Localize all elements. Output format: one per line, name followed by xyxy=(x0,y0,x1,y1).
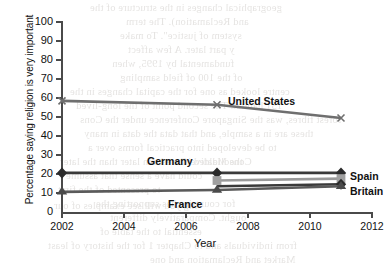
series-label-germany: Germany xyxy=(147,155,193,167)
series-united-states xyxy=(59,97,345,121)
series-label-united-states: United States xyxy=(228,95,295,107)
series-label-spain: Spain xyxy=(350,170,379,182)
series-label-britain: Britain xyxy=(350,185,383,197)
series-france xyxy=(57,181,346,195)
series-germany xyxy=(57,167,346,178)
series-label-france: France xyxy=(168,198,202,210)
